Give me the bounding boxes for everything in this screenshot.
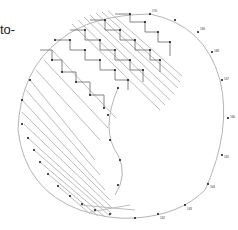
svg-text:165: 165 <box>224 155 229 159</box>
hatching-bottom <box>80 205 135 212</box>
svg-text:168: 168 <box>214 49 219 53</box>
svg-text:163: 163 <box>187 207 192 211</box>
svg-text:167: 167 <box>224 77 229 81</box>
hatching-lower <box>22 50 116 217</box>
hatching-upper <box>72 11 182 110</box>
dot-to-dot-puzzle: 170 169 168 167 166 165 164 163 162 <box>0 0 238 230</box>
svg-text:164: 164 <box>210 185 215 189</box>
dots <box>21 13 229 219</box>
staircase-line <box>40 14 170 108</box>
svg-text:169: 169 <box>200 27 205 31</box>
svg-text:170: 170 <box>152 9 157 13</box>
svg-text:162: 162 <box>160 216 165 220</box>
inner-curve-line <box>109 88 122 195</box>
outer-arc-labels: 170 169 168 167 166 165 164 163 162 <box>152 9 235 220</box>
svg-text:166: 166 <box>230 115 235 119</box>
